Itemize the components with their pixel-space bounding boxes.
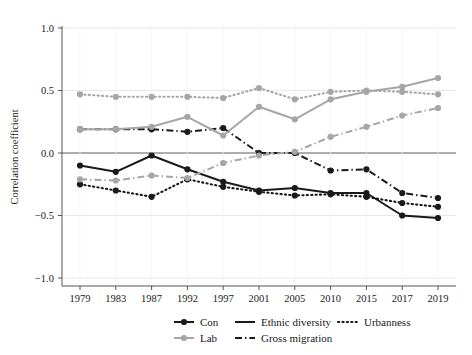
data-point — [113, 169, 119, 175]
data-point — [220, 184, 226, 190]
legend-swatch-marker-con — [181, 319, 187, 325]
data-point — [184, 94, 190, 100]
correlation-coefficient-chart: 1.00.50.0−0.5−1.019791983198719921997200… — [0, 0, 472, 355]
legend: ConLabEthnic diversityGross migrationUrb… — [174, 316, 410, 344]
data-point — [77, 162, 83, 168]
data-point — [328, 191, 334, 197]
data-point — [435, 105, 441, 111]
data-point — [77, 126, 83, 132]
legend-label-lab: Lab — [200, 332, 218, 344]
xtick-label-9: 2017 — [392, 293, 413, 304]
data-point — [256, 104, 262, 110]
ytick-label-3: −0.5 — [35, 210, 54, 221]
legend-label-con: Con — [200, 316, 219, 328]
data-point — [399, 89, 405, 95]
data-point — [328, 167, 334, 173]
ytick-label-1: 0.5 — [41, 85, 54, 96]
legend-item-urbanness[interactable]: Urbanness — [338, 316, 410, 328]
xtick-label-8: 2015 — [356, 293, 377, 304]
data-point — [292, 116, 298, 122]
legend-item-gross_migration[interactable]: Gross migration — [235, 332, 333, 344]
data-point — [184, 166, 190, 172]
data-point — [220, 125, 226, 131]
data-point — [292, 192, 298, 198]
data-point — [435, 75, 441, 81]
data-point — [113, 177, 119, 183]
data-point — [435, 91, 441, 97]
data-point — [256, 189, 262, 195]
data-point — [149, 172, 155, 178]
data-point — [292, 185, 298, 191]
data-point — [363, 124, 369, 130]
data-point — [435, 195, 441, 201]
data-point — [113, 187, 119, 193]
legend-swatch-marker-lab — [181, 335, 187, 341]
data-point — [184, 114, 190, 120]
ytick-label-4: −1.0 — [35, 273, 54, 284]
data-point — [328, 89, 334, 95]
data-point — [399, 212, 405, 218]
ytick-label-0: 1.0 — [41, 23, 54, 34]
data-point — [399, 190, 405, 196]
data-point — [256, 85, 262, 91]
data-point — [113, 94, 119, 100]
data-point — [328, 134, 334, 140]
xtick-label-6: 2005 — [284, 293, 305, 304]
data-point — [149, 124, 155, 130]
data-point — [363, 194, 369, 200]
data-point — [149, 152, 155, 158]
legend-label-gross_migration: Gross migration — [261, 332, 333, 344]
xtick-label-2: 1987 — [141, 293, 162, 304]
data-point — [220, 95, 226, 101]
data-point — [363, 87, 369, 93]
data-point — [292, 149, 298, 155]
xtick-label-0: 1979 — [70, 293, 91, 304]
data-point — [220, 132, 226, 138]
chart-canvas: 1.00.50.0−0.5−1.019791983198719921997200… — [0, 0, 472, 355]
data-point — [363, 166, 369, 172]
data-point — [256, 152, 262, 158]
legend-item-con[interactable]: Con — [174, 316, 219, 328]
legend-item-ethnic_diversity[interactable]: Ethnic diversity — [235, 316, 331, 328]
data-point — [399, 200, 405, 206]
data-point — [292, 96, 298, 102]
data-point — [435, 204, 441, 210]
xtick-label-3: 1992 — [177, 293, 198, 304]
data-point — [149, 94, 155, 100]
xtick-label-5: 2001 — [249, 293, 270, 304]
xtick-label-10: 2019 — [428, 293, 449, 304]
data-point — [399, 112, 405, 118]
legend-label-ethnic_diversity: Ethnic diversity — [261, 316, 331, 328]
data-point — [77, 176, 83, 182]
legend-label-urbanness: Urbanness — [364, 316, 410, 328]
data-point — [149, 194, 155, 200]
data-point — [113, 126, 119, 132]
xtick-label-4: 1997 — [213, 293, 234, 304]
ytick-label-2: 0.0 — [41, 148, 54, 159]
data-point — [435, 215, 441, 221]
data-point — [184, 129, 190, 135]
xtick-label-7: 2010 — [320, 293, 341, 304]
xtick-label-1: 1983 — [105, 293, 126, 304]
data-point — [328, 96, 334, 102]
data-point — [220, 160, 226, 166]
data-point — [77, 91, 83, 97]
data-point — [184, 175, 190, 181]
y-axis-title: Correlation coefficient — [9, 109, 20, 204]
legend-item-lab[interactable]: Lab — [174, 332, 218, 344]
